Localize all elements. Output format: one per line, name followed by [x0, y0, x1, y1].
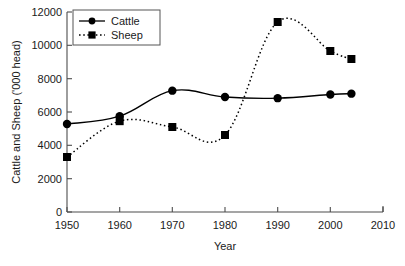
y-tick-label-8000: 8000 [38, 73, 62, 85]
data-point-cattle-2000 [326, 90, 334, 98]
data-point-sheep-1950 [63, 153, 71, 161]
x-axis-title: Year [214, 240, 237, 252]
y-tick-label-4000: 4000 [38, 139, 62, 151]
data-point-sheep-1990 [274, 18, 282, 26]
data-point-sheep-2004 [347, 55, 355, 63]
data-point-sheep-1960 [116, 117, 124, 125]
data-point-cattle-1950 [63, 120, 71, 128]
y-tick-label-0: 0 [56, 206, 62, 218]
data-point-sheep-1980 [221, 131, 229, 139]
x-tick-label-1950: 1950 [55, 219, 79, 231]
legend-label-cattle: Cattle [111, 15, 140, 27]
y-axis-title: Cattle and Sheep ('000 head) [10, 40, 22, 183]
x-tick-label-2010: 2010 [371, 219, 395, 231]
y-tick-marks [67, 12, 72, 212]
x-tick-label-1960: 1960 [107, 219, 131, 231]
x-tick-label-1980: 1980 [213, 219, 237, 231]
chart-legend: Cattle Sheep [73, 10, 160, 45]
x-tick-label-1970: 1970 [160, 219, 184, 231]
legend-marker-square-icon [88, 31, 95, 38]
chart-figure: 0 2000 4000 6000 8000 10000 12000 1950 1… [0, 0, 405, 266]
series-line-cattle [67, 90, 351, 124]
legend-label-sheep: Sheep [111, 29, 143, 41]
x-tick-label-2000: 2000 [318, 219, 342, 231]
x-tick-label-1990: 1990 [265, 219, 289, 231]
y-tick-label-2000: 2000 [38, 173, 62, 185]
data-point-cattle-1980 [221, 93, 229, 101]
data-point-sheep-1970 [168, 123, 176, 131]
legend-marker-circle-icon [89, 18, 96, 25]
x-tick-marks [67, 207, 383, 212]
data-point-cattle-2004 [347, 89, 355, 97]
line-chart: 0 2000 4000 6000 8000 10000 12000 1950 1… [0, 0, 405, 266]
data-point-sheep-2000 [326, 47, 334, 55]
series-cattle [63, 86, 356, 128]
data-point-cattle-1970 [168, 86, 176, 94]
y-tick-label-12000: 12000 [31, 6, 62, 18]
y-tick-label-6000: 6000 [38, 106, 62, 118]
data-point-cattle-1990 [273, 94, 281, 102]
y-tick-label-10000: 10000 [31, 39, 62, 51]
